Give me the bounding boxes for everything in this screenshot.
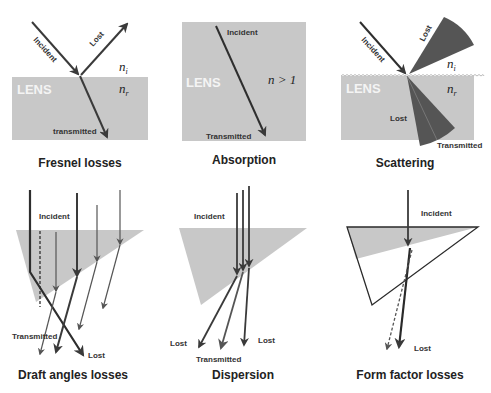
- panel-draft-angles: Incident Transmitted Lost Draft angles l…: [12, 190, 144, 382]
- panel-form-factor: Incident Lost Form factor losses: [347, 190, 478, 382]
- n-i-symbol: ni: [447, 56, 456, 73]
- transmitted-label: Transmitted: [12, 332, 57, 341]
- lost-left-label: Lost: [170, 339, 187, 348]
- lost-ray-right: [244, 268, 249, 345]
- lost-right-label: Lost: [258, 336, 275, 345]
- caption: Draft angles losses: [18, 368, 128, 382]
- lost-scatter-cone-top: [409, 17, 474, 74]
- lens-label: LENS: [346, 81, 381, 96]
- incident-label: Incident: [360, 35, 387, 64]
- refractive-index-label: n > 1: [268, 72, 296, 87]
- transmitted-label: Transmitted: [196, 355, 241, 364]
- panel-scattering: Incident Lost Lost Transmitted LENS ni n…: [341, 17, 484, 170]
- n-i-symbol: ni: [119, 59, 128, 76]
- lost-label: Lost: [88, 30, 106, 49]
- lost-label: Lost: [88, 351, 105, 360]
- incident-label: Incident: [194, 212, 225, 221]
- incident-label: Incident: [32, 35, 59, 64]
- prism: [16, 230, 144, 302]
- lost-ray: [399, 248, 410, 347]
- ray-4-exit: [79, 262, 97, 329]
- lens-label: LENS: [186, 75, 221, 90]
- rough-surface: [341, 75, 484, 77]
- caption: Absorption: [212, 153, 276, 167]
- incident-label: Incident: [39, 212, 70, 221]
- incident-label: Incident: [227, 28, 258, 37]
- transmitted-label: Transmitted: [206, 132, 251, 141]
- lost-bottom-label: Lost: [390, 114, 407, 123]
- caption: Scattering: [376, 156, 435, 170]
- caption: Form factor losses: [356, 368, 464, 382]
- incident-label: Incident: [421, 209, 452, 218]
- optical-losses-diagram: LENS Incident Lost transmitted ni nr Fre…: [0, 0, 491, 393]
- caption: Dispersion: [212, 368, 274, 382]
- transmitted-label: transmitted: [53, 127, 97, 136]
- panel-fresnel: LENS Incident Lost transmitted ni nr Fre…: [12, 22, 148, 170]
- gray-region: [347, 227, 478, 259]
- panel-absorption: LENS Incident Transmitted n > 1 Absorpti…: [182, 22, 306, 167]
- lens-label: LENS: [17, 82, 52, 97]
- panel-dispersion: Incident Lost Lost Transmitted Dispersio…: [170, 186, 307, 382]
- caption: Fresnel losses: [38, 156, 122, 170]
- transmitted-label: Transmitted: [437, 141, 482, 150]
- lost-label: Lost: [414, 344, 431, 353]
